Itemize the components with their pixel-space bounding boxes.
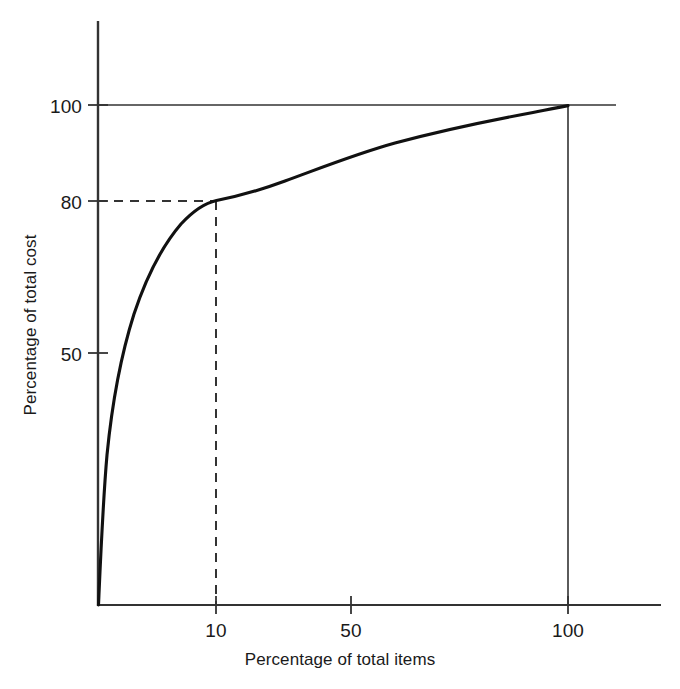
pareto-curve-figure: 100 80 50 10 50 100 Percentage of total … xyxy=(0,0,680,689)
chart-background xyxy=(0,0,680,689)
y-tick-label-50: 50 xyxy=(61,344,82,365)
chart-canvas: 100 80 50 10 50 100 Percentage of total … xyxy=(0,0,680,689)
x-tick-label-10: 10 xyxy=(205,620,226,641)
x-axis-title: Percentage of total items xyxy=(245,650,436,669)
y-tick-label-100: 100 xyxy=(50,96,82,117)
x-tick-label-100: 100 xyxy=(552,620,584,641)
y-axis-title: Percentage of total cost xyxy=(21,234,40,415)
x-tick-label-50: 50 xyxy=(340,620,361,641)
y-tick-label-80: 80 xyxy=(61,192,82,213)
